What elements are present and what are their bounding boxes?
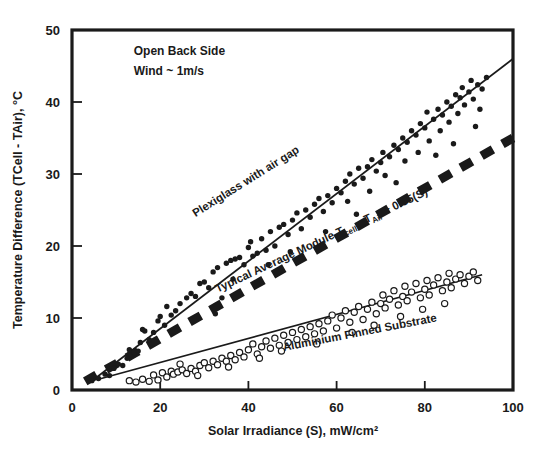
- x-tick-label: 40: [241, 400, 255, 415]
- data-point-filled: [173, 308, 178, 313]
- data-point-filled: [210, 269, 215, 274]
- data-point-filled: [142, 328, 147, 333]
- data-point-filled: [347, 171, 352, 176]
- data-point-filled: [457, 95, 462, 100]
- data-point-open: [195, 373, 201, 379]
- data-point-open: [267, 345, 273, 351]
- data-point-filled: [462, 102, 467, 107]
- y-tick-label: 40: [46, 95, 60, 110]
- data-point-filled: [169, 312, 174, 317]
- data-point-open: [259, 344, 265, 350]
- data-point-open: [364, 306, 370, 312]
- x-tick-label: 60: [329, 400, 343, 415]
- x-tick-label: 100: [502, 400, 524, 415]
- data-point-open: [442, 301, 448, 307]
- data-point-open: [146, 378, 152, 384]
- data-point-open: [256, 355, 262, 361]
- x-tick-label: 80: [418, 400, 432, 415]
- data-point-filled: [219, 295, 224, 300]
- y-tick-label: 20: [46, 239, 60, 254]
- data-point-open: [338, 315, 344, 321]
- data-point-open: [395, 302, 401, 308]
- data-point-open: [347, 319, 353, 325]
- data-point-open: [133, 379, 139, 385]
- data-point-open: [413, 280, 419, 286]
- data-point-filled: [369, 157, 374, 162]
- data-point-open: [225, 364, 231, 370]
- data-point-open: [250, 341, 256, 347]
- data-point-filled: [402, 158, 407, 163]
- data-point-filled: [475, 82, 480, 87]
- data-point-open: [380, 292, 386, 298]
- data-point-filled: [444, 99, 449, 104]
- data-point-filled: [290, 217, 295, 222]
- data-point-open: [241, 354, 247, 360]
- data-point-filled: [316, 196, 321, 201]
- data-point-filled: [259, 236, 264, 241]
- data-point-filled: [158, 314, 163, 319]
- data-point-open: [316, 321, 322, 327]
- data-point-filled: [277, 225, 282, 230]
- data-point-open: [126, 378, 132, 384]
- y-axis-title: Temperature Difference (TCell - TAir), °…: [11, 91, 25, 329]
- data-point-filled: [325, 193, 330, 198]
- data-point-open: [139, 376, 145, 382]
- data-point-filled: [312, 202, 317, 207]
- data-point-open: [263, 338, 269, 344]
- data-point-filled: [138, 340, 143, 345]
- data-point-filled: [263, 248, 268, 253]
- data-point-open: [439, 288, 445, 294]
- data-point-filled: [124, 356, 129, 361]
- data-point-filled: [162, 323, 167, 328]
- data-point-open: [325, 318, 331, 324]
- data-point-filled: [451, 141, 456, 146]
- data-point-open: [206, 365, 212, 371]
- y-tick-label: 50: [46, 23, 60, 38]
- data-point-filled: [396, 147, 401, 152]
- data-point-open: [307, 324, 313, 330]
- data-point-filled: [449, 104, 454, 109]
- data-point-filled: [413, 132, 418, 137]
- data-point-filled: [365, 164, 370, 169]
- data-point-open: [386, 296, 392, 302]
- data-point-filled: [356, 166, 361, 171]
- data-point-filled: [241, 262, 246, 267]
- y-tick-label: 30: [46, 167, 60, 182]
- data-point-filled: [391, 143, 396, 148]
- data-point-filled: [285, 232, 290, 237]
- data-point-filled: [378, 160, 383, 165]
- data-point-filled: [272, 243, 277, 248]
- data-point-open: [402, 283, 408, 289]
- data-point-filled: [338, 190, 343, 195]
- data-point-filled: [224, 261, 229, 266]
- data-point-open: [408, 289, 414, 295]
- data-point-filled: [374, 168, 379, 173]
- data-point-filled: [367, 189, 372, 194]
- data-point-filled: [299, 226, 304, 231]
- data-point-filled: [440, 112, 445, 117]
- data-point-open: [329, 312, 335, 318]
- data-point-filled: [107, 373, 112, 378]
- data-point-filled: [380, 150, 385, 155]
- data-point-filled: [281, 222, 286, 227]
- data-point-open: [475, 277, 481, 283]
- data-point-filled: [484, 75, 489, 80]
- data-point-filled: [431, 117, 436, 122]
- data-point-open: [444, 279, 450, 285]
- data-point-filled: [215, 265, 220, 270]
- data-point-filled: [455, 111, 460, 116]
- data-point-open: [369, 299, 375, 305]
- data-point-filled: [321, 209, 326, 214]
- data-point-open: [420, 306, 426, 312]
- data-point-filled: [188, 291, 193, 296]
- data-point-filled: [307, 215, 312, 220]
- data-point-filled: [213, 311, 218, 316]
- data-point-filled: [193, 294, 198, 299]
- data-point-filled: [294, 210, 299, 215]
- data-point-open: [342, 308, 348, 314]
- data-point-open: [424, 277, 430, 283]
- data-point-filled: [427, 138, 432, 143]
- data-point-open: [470, 269, 476, 275]
- data-point-filled: [433, 153, 438, 158]
- annotation-condition-line-2: Wind ~ 1m/s: [134, 64, 205, 78]
